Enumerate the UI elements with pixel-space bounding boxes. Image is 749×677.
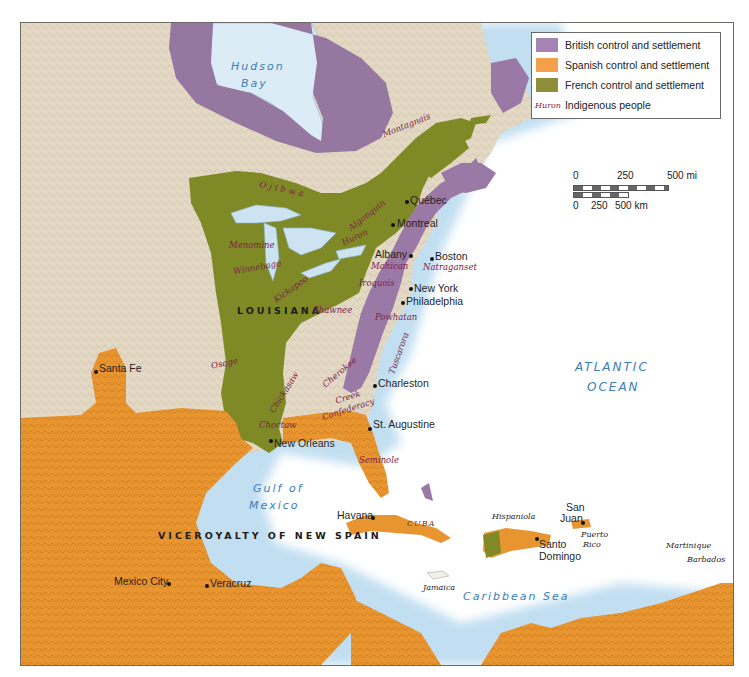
scale-mi-500: 500 mi: [667, 171, 697, 181]
tribe-seminole: Seminole: [359, 456, 399, 465]
city-dot-new-orleans: [269, 439, 273, 443]
city-dot-new-york: [409, 287, 413, 291]
island-hispaniola: Hispaniola: [492, 513, 535, 521]
label-gulf-2: Mexico: [249, 500, 300, 511]
island-puerto-rico-1: Puerto: [581, 531, 608, 539]
city-san-juan-1: San: [566, 502, 585, 513]
bahamas: [421, 483, 433, 501]
city-new-york: New York: [414, 283, 458, 294]
tribe-narragansett: Natraganset: [423, 263, 477, 272]
label-atlantic-1: ATLANTIC: [575, 361, 649, 373]
city-philadelphia: Philadelphia: [406, 296, 463, 307]
city-dot-mexico-city: [167, 582, 171, 586]
scale-km-250: 250: [591, 201, 608, 211]
tribe-menominee: Menomine: [229, 241, 275, 250]
city-albany: Albany: [375, 249, 407, 260]
city-dot-santa-fe: [94, 370, 98, 374]
legend-item-british: British control and settlement: [536, 37, 700, 53]
label-gulf-1: Gulf of: [253, 483, 304, 494]
island-cuba: CUBA: [407, 520, 436, 528]
label-louisiana: LOUISIANA: [237, 306, 322, 316]
city-new-orleans: New Orleans: [274, 438, 335, 449]
island-jamaica: Jamaica: [423, 584, 455, 592]
tribe-powhatan: Powhatan: [375, 313, 417, 322]
scale-bar: 0 250 500 mi 0 250 500 km: [573, 171, 703, 221]
tribe-mohican: Mohican: [371, 262, 408, 271]
city-dot-san-juan: [581, 521, 585, 525]
scale-km-500: 500 km: [615, 201, 648, 211]
label-caribbean-sea: Caribbean Sea: [463, 591, 569, 602]
island-barbados: Barbados: [687, 556, 725, 564]
city-dot-quebec: [405, 200, 409, 204]
legend-item-spanish: Spanish control and settlement: [536, 57, 709, 73]
island-martinique: Martinique: [666, 542, 711, 550]
french-swatch: [536, 78, 558, 92]
map-base: [21, 23, 733, 665]
map-legend: British control and settlement Spanish c…: [531, 32, 721, 119]
city-dot-montreal: [391, 223, 395, 227]
map-frame: British control and settlement Spanish c…: [20, 22, 734, 666]
island-puerto-rico-2: Rico: [583, 541, 601, 549]
label-hudson-bay-2: Bay: [241, 78, 268, 89]
legend-item-french: French control and settlement: [536, 77, 704, 93]
city-santo-domingo-1: Santo: [539, 539, 566, 550]
city-dot-albany: [409, 254, 413, 258]
city-quebec: Québec: [410, 195, 447, 206]
city-montreal: Montreal: [397, 218, 438, 229]
city-dot-havana: [371, 516, 375, 520]
city-charleston: Charleston: [378, 378, 429, 389]
legend-indigenous-sample: Huron: [535, 101, 561, 110]
british-swatch: [536, 38, 558, 52]
city-dot-boston: [430, 257, 434, 261]
tribe-iroquois: Iroquois: [359, 279, 395, 288]
label-atlantic-2: OCEAN: [587, 381, 640, 393]
spanish-swatch: [536, 58, 558, 72]
label-new-spain: VICEROYALTY OF NEW SPAIN: [158, 531, 382, 541]
tribe-choctaw: Choctaw: [259, 421, 297, 430]
scale-bar-miles: [573, 185, 669, 191]
city-mexico-city: Mexico City: [114, 576, 168, 587]
city-dot-veracruz: [205, 584, 209, 588]
city-dot-st-augustine: [368, 427, 372, 431]
tribe-shawnee: Shawnee: [313, 306, 352, 315]
city-dot-philadelphia: [401, 301, 405, 305]
scale-mi-250: 250: [617, 171, 634, 181]
city-san-juan-2: Juan: [560, 513, 583, 524]
scale-bar-km: [573, 192, 629, 198]
city-dot-charleston: [373, 384, 377, 388]
scale-mi-0: 0: [573, 171, 579, 181]
legend-label-british: British control and settlement: [565, 39, 700, 51]
city-santa-fe: Santa Fe: [99, 363, 142, 374]
city-santo-domingo-2: Domingo: [539, 551, 581, 562]
city-boston: Boston: [435, 251, 468, 262]
legend-label-spanish: Spanish control and settlement: [565, 59, 709, 71]
label-hudson-bay-1: Hudson: [231, 61, 285, 72]
legend-label-indigenous: Indigenous people: [565, 99, 651, 111]
city-st-augustine: St. Augustine: [373, 419, 435, 430]
legend-label-french: French control and settlement: [565, 79, 704, 91]
jamaica-island: [427, 571, 449, 579]
city-veracruz: Veracruz: [210, 578, 251, 589]
city-havana: Havana: [337, 510, 373, 521]
legend-item-indigenous: Huron Indigenous people: [535, 97, 651, 113]
scale-km-0: 0: [573, 201, 579, 211]
